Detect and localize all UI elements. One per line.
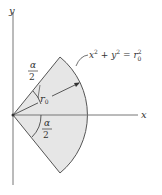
svg-text:2: 2	[43, 130, 49, 140]
svg-text:2: 2	[29, 72, 35, 82]
y-axis-label: y	[8, 5, 15, 16]
svg-text:α: α	[44, 118, 50, 128]
half-angle-label-top: α 2	[28, 60, 38, 82]
svg-text:α: α	[30, 60, 36, 70]
x-axis-label: x	[141, 109, 147, 120]
sector-diagram: y x r0 α 2 α 2 x2 + y2 = r20	[0, 0, 162, 195]
circle-equation: x2 + y2 = r20	[89, 48, 142, 62]
equation-leader	[76, 55, 88, 66]
